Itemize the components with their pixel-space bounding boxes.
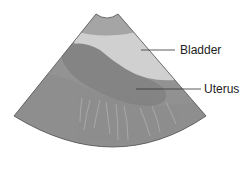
uterus-label: Uterus bbox=[204, 83, 239, 95]
bladder-label: Bladder bbox=[180, 44, 221, 56]
near-field bbox=[60, 10, 160, 36]
